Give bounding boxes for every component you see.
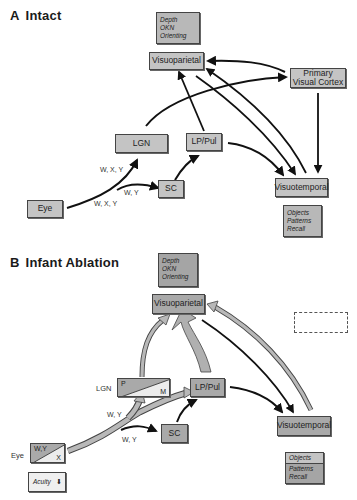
- note-b-patterns: Patterns: [286, 464, 323, 473]
- lgn-box-b: P M: [117, 378, 170, 397]
- note-b-okn: OKN: [162, 265, 194, 273]
- primary-visual-cortex-box: Primary Visual Cortex: [290, 68, 346, 88]
- sc-box-a: SC: [158, 180, 184, 198]
- panel-b-letter: B: [10, 255, 20, 270]
- eye-wy-label: W,Y: [34, 445, 47, 452]
- edge-label-from-eye-a: W, X, Y: [94, 200, 117, 207]
- arrow-b-sc-to-lppul: [177, 400, 196, 422]
- note-depth: Depth: [160, 16, 196, 24]
- acuity-label: Acuity: [33, 478, 51, 486]
- note-recall: Recall: [287, 225, 318, 233]
- edge-label-to-sc-b: W, Y: [122, 436, 137, 443]
- edge-label-to-lgn-a: W, X, Y: [100, 166, 123, 173]
- note-b-objects: Objects: [286, 453, 323, 464]
- pvc-line2: Visual Cortex: [293, 78, 343, 87]
- arrow-b-visuoparietal-to-visuotemporal: [202, 320, 293, 412]
- lgn-label-b: LGN: [96, 384, 111, 393]
- parietal-functions-note-a: Depth OKN Orienting: [156, 12, 200, 44]
- acuity-down-icon: ⬇: [56, 478, 62, 487]
- note-okn: OKN: [160, 24, 196, 32]
- lgn-p-label: P: [121, 380, 126, 387]
- edge-label-to-lgn-b: W, Y: [107, 411, 122, 418]
- arrow-sc-to-lppul: [175, 156, 198, 180]
- visuoparietal-box-b: Visuoparietal: [152, 294, 205, 314]
- note-orienting: Orienting: [160, 32, 196, 40]
- visuoparietal-box-a: Visuoparietal: [149, 52, 204, 70]
- arrow-lgn-to-pvc: [146, 77, 286, 126]
- lppul-box-b: LP/Pul: [190, 378, 225, 397]
- edge-label-to-sc-a: W, Y: [124, 189, 139, 196]
- lppul-box-a: LP/Pul: [186, 133, 222, 151]
- arrow-b-branch-to-sc: [121, 426, 156, 431]
- eye-box-a: Eye: [27, 200, 63, 218]
- visuotemporal-box-b: Visuotemporal: [277, 416, 331, 436]
- lgn-m-label: M: [160, 388, 166, 395]
- arrow-lppul-to-visuoparietal: [179, 72, 204, 131]
- eye-box-b: W,Y X: [30, 443, 65, 463]
- note-b-recall: Recall: [286, 473, 323, 481]
- note-patterns: Patterns: [287, 217, 318, 225]
- note-b-orienting: Orienting: [162, 273, 194, 281]
- note-b-depth: Depth: [162, 257, 194, 265]
- temporal-functions-note-a: Objects Patterns Recall: [283, 205, 322, 237]
- panel-b-title: BInfant Ablation: [10, 255, 119, 270]
- arrow-b-lppul-to-visuotemporal: [230, 387, 282, 412]
- broad-arrow-lppul-to-visuoparietal: [172, 309, 211, 372]
- panel-b-title-text: Infant Ablation: [26, 255, 120, 270]
- eye-x-label: X: [56, 454, 61, 461]
- eye-label-b: Eye: [11, 451, 24, 460]
- ablated-cortex-placeholder: [294, 312, 348, 333]
- temporal-functions-note-b: Objects Patterns Recall: [285, 452, 324, 484]
- note-objects: Objects: [287, 209, 318, 217]
- parietal-functions-note-b: Depth OKN Orienting: [158, 253, 198, 287]
- acuity-note: Acuity ⬇: [28, 472, 66, 492]
- visuotemporal-box-a: Visuotemporal: [275, 178, 328, 197]
- arrow-pvc-to-visuoparietal: [208, 61, 285, 72]
- sc-box-b: SC: [161, 424, 188, 443]
- lgn-box-a: LGN: [115, 134, 168, 153]
